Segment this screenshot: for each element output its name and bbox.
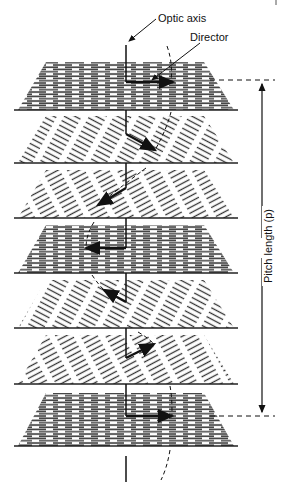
optic-axis-label: Optic axis: [158, 12, 206, 24]
director-label: Director: [190, 31, 229, 43]
cholesteric-helix-diagram: [0, 0, 285, 486]
optic-axis-leader: [129, 19, 156, 41]
pitch-length-label: Pitch length (p): [262, 206, 274, 286]
